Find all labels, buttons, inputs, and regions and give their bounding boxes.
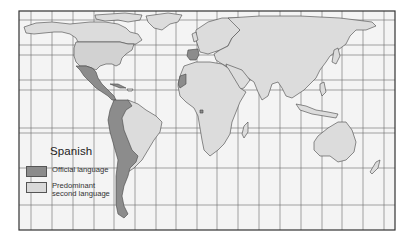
legend-item-official: Official language	[26, 166, 108, 177]
official-language-label: Official language	[52, 166, 108, 174]
second-language-swatch	[26, 182, 47, 193]
official-language-swatch	[26, 166, 47, 177]
legend-title: Spanish	[50, 145, 92, 157]
world-map	[0, 0, 410, 246]
equatorial-guinea	[200, 110, 203, 113]
second-language-label: Predominant second language	[52, 182, 110, 198]
legend-item-second: Predominant second language	[26, 182, 110, 198]
spain	[187, 49, 199, 60]
hispaniola	[127, 89, 133, 91]
